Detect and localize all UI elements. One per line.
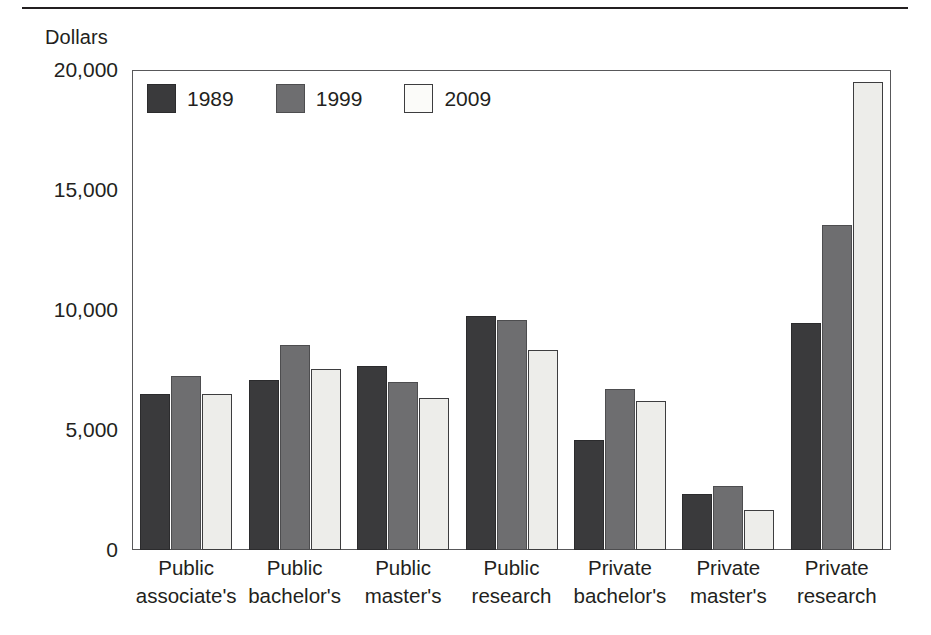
legend-swatch-icon <box>404 84 433 113</box>
x-axis-label-line: research <box>449 582 573 610</box>
x-axis-label: Publicmaster's <box>341 554 465 610</box>
x-axis-label: Publicbachelor's <box>232 554 356 610</box>
x-axis-label: Privatebachelor's <box>558 554 682 610</box>
x-axis-label-line: Private <box>666 554 790 582</box>
bar <box>466 316 496 550</box>
bar <box>574 440 604 550</box>
x-axis-label-line: associate's <box>124 582 248 610</box>
bar-group <box>140 70 232 550</box>
bar <box>357 366 387 550</box>
x-axis-label-line: master's <box>666 582 790 610</box>
bars-layer <box>132 70 891 550</box>
bar <box>636 401 666 550</box>
bar <box>497 320 527 550</box>
bar <box>605 389 635 550</box>
bar-group <box>682 70 774 550</box>
bar-group <box>466 70 558 550</box>
bar <box>682 494 712 550</box>
y-tick-label: 15,000 <box>54 178 118 202</box>
legend-swatch-icon <box>147 84 176 113</box>
x-axis-label-line: Public <box>341 554 465 582</box>
bar <box>388 382 418 550</box>
x-axis-category-labels: Publicassociate'sPublicbachelor'sPublicm… <box>132 554 891 634</box>
x-axis-label: Publicresearch <box>449 554 573 610</box>
chart-legend: 198919992009 <box>147 84 533 113</box>
bar <box>311 369 341 550</box>
y-tick-label: 10,000 <box>54 298 118 322</box>
x-axis-label-line: Public <box>124 554 248 582</box>
bar <box>822 225 852 550</box>
y-tick-label: 20,000 <box>54 58 118 82</box>
header-rule <box>22 7 908 9</box>
x-axis-label: Privatemaster's <box>666 554 790 610</box>
x-axis-label-line: Public <box>449 554 573 582</box>
bar <box>280 345 310 550</box>
bar-group <box>357 70 449 550</box>
legend-item: 2009 <box>404 84 491 113</box>
x-axis-label-line: master's <box>341 582 465 610</box>
bar <box>202 394 232 550</box>
legend-item: 1999 <box>276 84 363 113</box>
legend-item: 1989 <box>147 84 234 113</box>
bar <box>171 376 201 550</box>
legend-label: 1989 <box>187 88 234 109</box>
bar <box>528 350 558 550</box>
legend-label: 1999 <box>316 88 363 109</box>
y-tick-label: 0 <box>106 538 118 562</box>
bar <box>249 380 279 550</box>
bar <box>140 394 170 550</box>
y-axis-tick-labels: 20,00015,00010,0005,0000 <box>0 0 118 635</box>
bar-group <box>574 70 666 550</box>
legend-swatch-icon <box>276 84 305 113</box>
bar <box>713 486 743 550</box>
x-axis-label: Privateresearch <box>775 554 899 610</box>
bar-group <box>249 70 341 550</box>
x-axis-label-line: Private <box>775 554 899 582</box>
x-axis-label-line: bachelor's <box>232 582 356 610</box>
x-axis-label-line: bachelor's <box>558 582 682 610</box>
bar-group <box>791 70 883 550</box>
x-axis-label: Publicassociate's <box>124 554 248 610</box>
bar <box>853 82 883 550</box>
bar <box>419 398 449 550</box>
legend-label: 2009 <box>444 88 491 109</box>
y-tick-label: 5,000 <box>65 418 118 442</box>
bar <box>791 323 821 550</box>
x-axis-label-line: research <box>775 582 899 610</box>
x-axis-label-line: Public <box>232 554 356 582</box>
bar <box>744 510 774 550</box>
x-axis-label-line: Private <box>558 554 682 582</box>
